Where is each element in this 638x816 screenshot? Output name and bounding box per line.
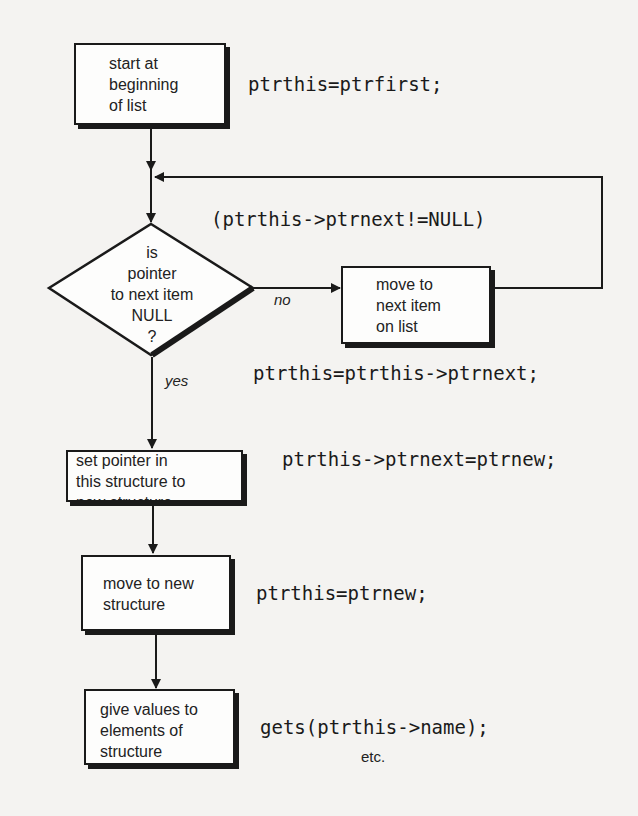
give-values-node: give values to elements of structure xyxy=(84,689,235,765)
move-new-node: move to new structure xyxy=(81,555,231,631)
start-line-2: beginning xyxy=(109,74,224,95)
decision-line-4: NULL xyxy=(91,305,213,326)
decision-line-3: to next item xyxy=(91,284,213,305)
decision-line-1: is xyxy=(91,242,213,263)
decision-line-5: ? xyxy=(91,326,213,347)
decision-code: (ptrthis->ptrnext!=NULL) xyxy=(211,208,486,230)
start-node: start at beginning of list xyxy=(74,43,226,125)
move-new-line-1: move to new xyxy=(103,573,229,594)
move-next-node: move to next item on list xyxy=(341,266,491,344)
set-pointer-node: set pointer in this structure to new str… xyxy=(66,450,243,502)
set-pointer-line-1: set pointer in xyxy=(76,450,241,471)
move-next-code: ptrthis=ptrthis->ptrnext; xyxy=(253,362,539,384)
set-pointer-line-2: this structure to xyxy=(76,471,241,492)
move-new-line-2: structure xyxy=(103,594,229,615)
give-values-note: etc. xyxy=(361,748,385,765)
move-new-code: ptrthis=ptrnew; xyxy=(256,582,428,604)
move-next-line-3: on list xyxy=(376,316,489,337)
move-next-line-2: next item xyxy=(376,295,489,316)
start-line-1: start at xyxy=(109,53,224,74)
set-pointer-code: ptrthis->ptrnext=ptrnew; xyxy=(282,448,557,470)
give-values-line-1: give values to xyxy=(100,699,233,720)
give-values-line-2: elements of xyxy=(100,720,233,741)
start-code: ptrthis=ptrfirst; xyxy=(248,73,442,95)
move-next-line-1: move to xyxy=(376,274,489,295)
start-line-3: of list xyxy=(109,95,224,116)
edge-label-yes: yes xyxy=(165,372,188,389)
set-pointer-line-3: new structure xyxy=(76,492,241,502)
decision-line-2: pointer xyxy=(91,263,213,284)
decision-node: is pointer to next item NULL ? xyxy=(91,242,213,347)
edge-label-no: no xyxy=(274,291,291,308)
give-values-line-3: structure xyxy=(100,741,233,762)
give-values-code: gets(ptrthis->name); xyxy=(260,716,489,738)
